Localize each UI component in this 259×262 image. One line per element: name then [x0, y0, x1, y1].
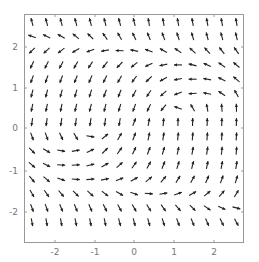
arrow-glyph	[59, 18, 62, 26]
arrow-glyph	[160, 77, 167, 81]
arrow-glyph	[235, 132, 238, 140]
arrow-glyph	[29, 148, 35, 154]
arrow-glyph	[58, 34, 65, 38]
arrow-glyph	[133, 118, 136, 126]
arrow-glyph	[147, 104, 151, 111]
arrow-glyph	[219, 91, 226, 96]
arrow-glyph	[59, 90, 62, 98]
arrow-glyph	[131, 177, 138, 181]
arrow-glyph	[203, 92, 211, 95]
arrow-glyph	[177, 218, 180, 226]
arrow-glyph	[87, 135, 95, 138]
arrow-glyph	[45, 118, 48, 126]
arrow-glyph	[147, 33, 150, 40]
arrow-glyph	[117, 162, 123, 167]
arrow-glyph	[88, 34, 94, 40]
arrow-glyph	[161, 205, 166, 212]
arrow-glyph	[30, 118, 33, 126]
arrow-glyph	[88, 62, 92, 69]
arrow-glyph	[60, 118, 63, 126]
arrow-glyph	[190, 48, 196, 53]
arrow-field	[28, 18, 240, 226]
arrow-glyph	[118, 133, 122, 140]
arrow-glyph	[145, 49, 153, 52]
arrow-glyph	[31, 218, 34, 226]
arrow-glyph	[235, 161, 238, 169]
arrow-glyph	[145, 63, 152, 67]
x-tick-label: 0	[131, 247, 137, 257]
arrow-glyph	[30, 190, 34, 197]
arrow-glyph	[161, 105, 166, 111]
arrow-glyph	[103, 62, 108, 68]
arrow-glyph	[189, 92, 197, 95]
arrow-glyph	[118, 18, 121, 26]
arrow-glyph	[206, 219, 210, 226]
arrow-glyph	[233, 77, 239, 82]
arrow-glyph	[175, 205, 180, 211]
y-tick-label: 1	[12, 83, 18, 93]
arrow-glyph	[220, 104, 223, 112]
arrow-glyph	[43, 163, 50, 167]
arrow-glyph	[219, 63, 226, 68]
arrow-glyph	[45, 18, 48, 26]
arrow-glyph	[206, 18, 209, 26]
arrow-glyph	[147, 147, 150, 155]
x-tick-label: -1	[91, 247, 100, 257]
arrow-glyph	[176, 33, 179, 41]
arrow-glyph	[189, 192, 196, 196]
arrow-glyph	[132, 18, 135, 26]
arrow-glyph	[118, 218, 121, 226]
arrow-glyph	[45, 218, 48, 226]
arrow-glyph	[132, 76, 137, 82]
arrow-glyph	[103, 76, 107, 83]
arrow-glyph	[44, 177, 50, 182]
arrow-glyph	[220, 132, 223, 140]
arrow-glyph	[204, 206, 211, 211]
arrow-glyph	[74, 133, 78, 140]
arrow-glyph	[102, 148, 108, 154]
arrow-glyph	[147, 18, 150, 26]
arrow-glyph	[235, 147, 238, 155]
arrow-glyph	[87, 163, 95, 166]
arrow-glyph	[87, 49, 95, 52]
arrow-glyph	[147, 133, 150, 141]
arrow-glyph	[30, 18, 33, 26]
arrow-glyph	[104, 218, 107, 226]
y-tick-label: -1	[9, 166, 18, 176]
arrow-glyph	[160, 91, 166, 96]
arrow-glyph	[43, 149, 50, 153]
arrow-glyph	[87, 149, 94, 153]
arrow-glyph	[43, 34, 50, 38]
arrow-glyph	[132, 204, 136, 211]
arrow-glyph	[191, 147, 194, 155]
arrow-glyph	[74, 61, 78, 68]
arrow-glyph	[147, 205, 151, 212]
arrow-glyph	[30, 104, 33, 112]
arrow-glyph	[103, 18, 106, 26]
arrow-glyph	[116, 192, 123, 196]
arrow-glyph	[177, 161, 180, 169]
arrow-glyph	[89, 218, 92, 226]
arrow-glyph	[45, 75, 48, 83]
x-tick-label: 2	[211, 247, 217, 257]
arrow-glyph	[89, 18, 92, 26]
arrow-glyph	[147, 90, 151, 97]
arrow-glyph	[30, 90, 33, 98]
arrow-glyph	[176, 176, 180, 183]
arrow-glyph	[30, 75, 33, 83]
arrow-glyph	[60, 204, 63, 211]
arrow-glyph	[57, 164, 65, 167]
arrow-glyph	[176, 18, 179, 26]
arrow-glyph	[162, 18, 165, 26]
arrow-glyph	[102, 191, 108, 196]
arrow-glyph	[57, 149, 65, 152]
arrow-glyph	[219, 191, 224, 197]
arrow-glyph	[219, 47, 224, 53]
arrow-glyph	[118, 118, 121, 126]
arrow-glyph	[175, 48, 182, 53]
arrow-glyph	[235, 219, 239, 226]
arrow-glyph	[162, 147, 165, 155]
arrow-glyph	[177, 147, 180, 155]
arrow-glyph	[45, 104, 48, 112]
arrow-glyph	[233, 62, 239, 67]
